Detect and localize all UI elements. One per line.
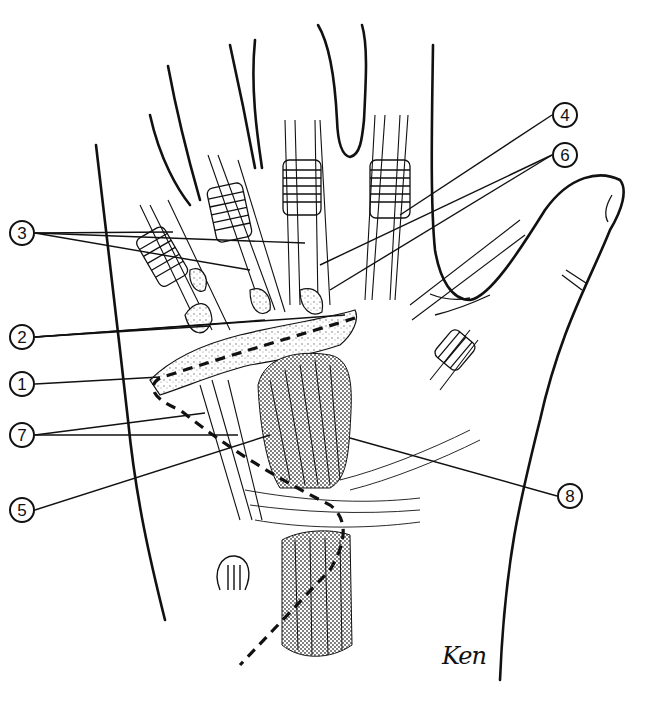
callout-1: 1 <box>9 371 35 397</box>
hand-outline <box>96 25 624 680</box>
leader-line-2 <box>35 320 265 337</box>
leader-line-4 <box>400 115 552 215</box>
callout-3: 3 <box>9 220 35 246</box>
leader-line-8 <box>350 438 557 496</box>
callout-7: 7 <box>9 422 35 448</box>
hand-anatomy-diagram <box>0 0 650 703</box>
leader-line-3 <box>35 232 173 233</box>
leader-line-5 <box>35 435 270 510</box>
carpal-tunnel-contents <box>258 353 352 656</box>
callout-8: 8 <box>557 483 583 509</box>
leader-line-1 <box>35 377 160 384</box>
artist-signature: Ken <box>442 642 486 670</box>
callout-2: 2 <box>9 324 35 350</box>
callout-5: 5 <box>9 497 35 523</box>
pisiform-bone <box>217 556 249 590</box>
leader-line-7 <box>35 413 205 435</box>
callout-6: 6 <box>552 142 578 168</box>
callout-4: 4 <box>552 102 578 128</box>
leader-line-3 <box>35 233 250 270</box>
